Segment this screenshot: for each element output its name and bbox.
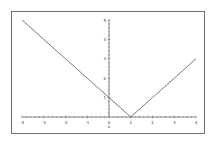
x-tick-label: -4	[20, 120, 24, 125]
x-tick-label: -1	[85, 120, 89, 125]
chart-frame	[12, 12, 205, 134]
x-tick-label: 3	[173, 120, 176, 125]
x-tick-label: -3	[42, 120, 46, 125]
chart: -4-3-2-101234 12345 x	[0, 0, 214, 141]
x-tick-label: 2	[151, 120, 154, 125]
x-tick-label: 1	[129, 120, 132, 125]
x-tick-label: 4	[195, 120, 198, 125]
x-tick-label: -2	[64, 120, 68, 125]
